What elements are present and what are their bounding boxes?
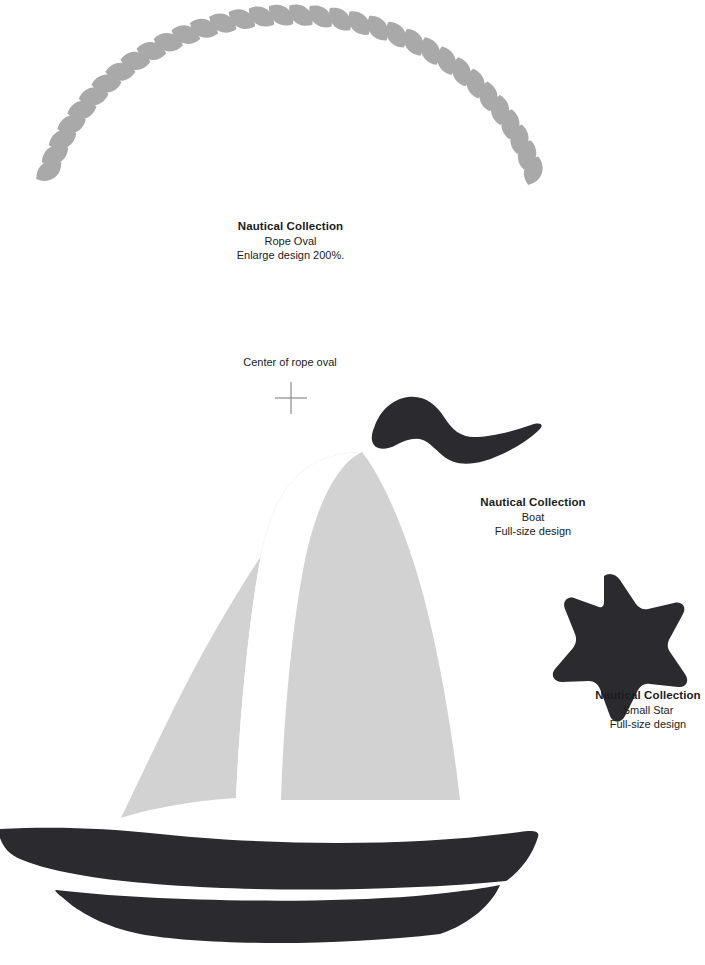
label-rope-oval: Nautical Collection Rope Oval Enlarge de… [138,219,443,262]
rope-segment [65,98,98,123]
rope-segment [37,140,72,170]
hull-lower-band [55,885,500,943]
rope-segment [169,22,203,48]
label-center-text: Center of rope oval [190,355,390,369]
hull-upper-band [0,828,538,890]
rope-segment [433,44,459,78]
label-rope-line2: Rope Oval [138,234,443,248]
rope-segment [31,155,66,187]
rope-segment [520,154,547,188]
label-star-line2: Small Star [553,703,705,717]
rope-segment [54,111,88,138]
rope-segment [303,0,337,33]
rope-segment [135,40,167,62]
rope-segment [500,109,520,140]
rope-segment [45,125,80,153]
rope-segment [508,123,531,156]
rope-segment [91,73,122,93]
back-sail [121,452,357,818]
rope-oval-arc [31,0,546,188]
center-crosshair [275,382,307,414]
rope-segment [152,30,185,54]
label-star-title: Nautical Collection [553,688,705,703]
label-rope-title: Nautical Collection [138,219,443,234]
pennant-flag [372,397,542,464]
rope-segment [417,34,445,69]
rope-segment [464,67,487,100]
rope-segment [362,11,394,46]
rope-segment [381,17,412,52]
label-rope-line3: Enlarge design 200%. [138,248,443,262]
rope-segment [225,4,260,34]
rope-segment [399,25,429,60]
rope-segment [515,138,540,172]
rope-segment [77,85,109,108]
label-boat: Nautical Collection Boat Full-size desig… [418,495,648,538]
label-small-star: Nautical Collection Small Star Full-size… [553,688,705,731]
label-center-marker: Center of rope oval [190,355,390,369]
rope-segment [264,0,299,31]
rope-segment [120,51,151,71]
rope-segment [284,0,319,32]
rope-segment [323,2,357,36]
rope-segment [491,95,509,125]
label-boat-line3: Full-size design [418,524,648,538]
rope-segment [343,6,376,41]
label-star-line3: Full-size design [553,717,705,731]
rope-segment [187,14,221,41]
rope-segment [244,1,279,32]
rope-segment [205,9,240,38]
rope-segment [105,63,135,81]
rope-segment [478,81,499,112]
rope-segment [449,55,474,88]
sail-gap [236,452,357,800]
label-boat-line2: Boat [418,510,648,524]
label-boat-title: Nautical Collection [418,495,648,510]
